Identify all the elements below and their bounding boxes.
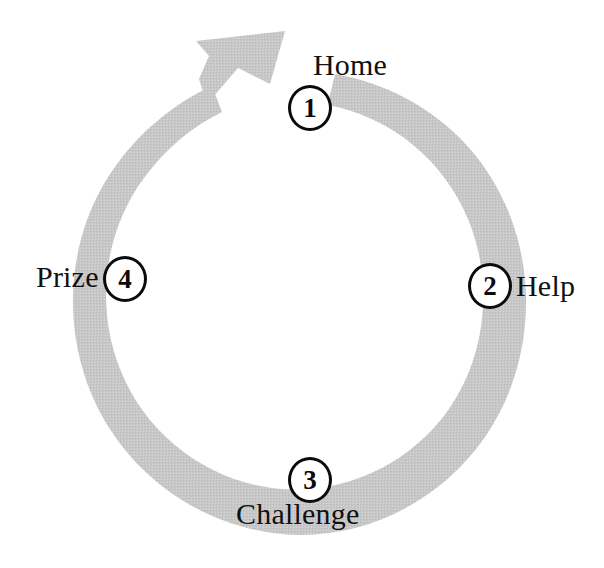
step-marker-1[interactable]: 1	[288, 85, 332, 131]
step-marker-2[interactable]: 2	[468, 263, 512, 309]
step-marker-4[interactable]: 4	[103, 256, 147, 302]
step-label-home: Home	[313, 50, 387, 80]
step-label-prize: Prize	[36, 262, 99, 292]
step-marker-number: 2	[483, 272, 497, 299]
step-marker-number: 4	[118, 265, 132, 292]
step-marker-number: 1	[303, 94, 317, 121]
step-marker-number: 3	[303, 466, 317, 493]
diagram-canvas: 1 Home 2 Help 3 Challenge 4 Prize	[0, 0, 604, 568]
step-label-help: Help	[516, 271, 575, 301]
step-label-challenge: Challenge	[236, 499, 359, 529]
